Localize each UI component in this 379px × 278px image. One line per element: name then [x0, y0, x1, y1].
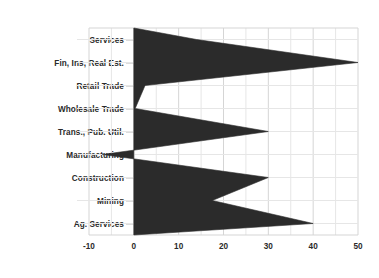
value-tick-label: 20: [219, 242, 228, 251]
value-tick-label: 30: [264, 242, 273, 251]
value-tick-label: -10: [83, 242, 95, 251]
value-tick-label: 0: [132, 242, 137, 251]
value-tick-label: 10: [174, 242, 183, 251]
value-tick-label: 40: [309, 242, 318, 251]
chart-container: ServicesFin, Ins, Real Est.Retail TradeW…: [0, 0, 379, 278]
value-tick-label: 50: [353, 242, 362, 251]
value-axis: -1001020304050: [0, 236, 379, 262]
